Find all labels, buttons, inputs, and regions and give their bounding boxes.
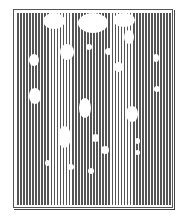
white-gap-blob xyxy=(29,88,41,104)
white-gap-blob xyxy=(60,44,74,60)
white-gap-blob xyxy=(124,30,134,44)
white-gap-blob xyxy=(78,13,108,33)
white-gap-blob xyxy=(86,44,92,50)
stripe-pattern xyxy=(17,13,171,205)
white-gap-blob xyxy=(92,134,99,142)
white-gap-blob xyxy=(126,106,138,122)
white-gap-blob xyxy=(135,150,140,155)
white-gap-blob xyxy=(114,62,123,72)
white-gap-blob xyxy=(154,86,160,92)
white-gap-blob xyxy=(113,13,135,27)
white-gap-blob xyxy=(101,146,109,154)
white-gap-blob xyxy=(105,48,112,55)
white-gap-blob xyxy=(58,126,71,148)
white-gap-blob xyxy=(43,13,65,29)
white-gap-blob xyxy=(67,164,74,170)
white-gap-blob xyxy=(88,168,94,174)
white-gap-blob xyxy=(79,98,91,118)
white-gap-blob xyxy=(135,138,140,144)
white-gap-blob xyxy=(45,160,50,166)
white-gap-blob xyxy=(29,54,39,66)
white-gap-blob xyxy=(153,54,159,62)
